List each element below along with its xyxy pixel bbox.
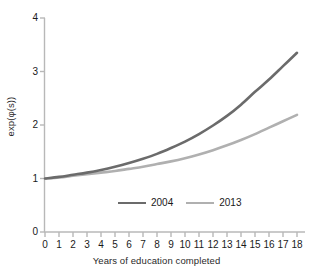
legend-label: 2013	[219, 198, 241, 208]
legend-entry: 2013	[186, 198, 241, 208]
line-series-2004	[45, 53, 297, 179]
x-axis-label: Years of education completed	[0, 255, 313, 266]
legend-label: 2004	[151, 198, 173, 208]
x-tick-marks	[45, 232, 297, 237]
chart-legend: 20042013	[118, 198, 242, 208]
chart-figure: exp(φ(s)) 01234 012345678910111213141516…	[0, 0, 313, 277]
plot-area	[0, 0, 313, 277]
x-axis-label-text: Years of education completed	[93, 255, 221, 266]
legend-swatch	[118, 202, 146, 205]
legend-entry: 2004	[118, 198, 173, 208]
legend-swatch	[186, 202, 214, 205]
